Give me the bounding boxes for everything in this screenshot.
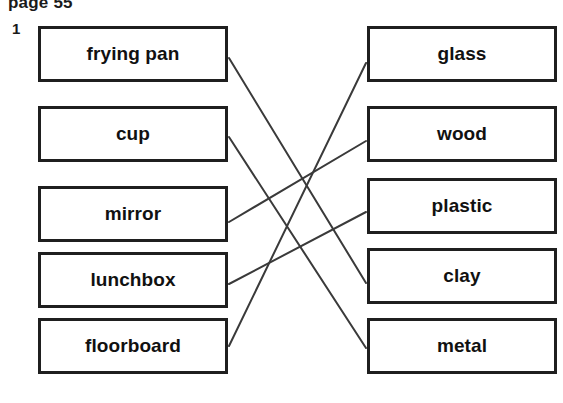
material-box-wood[interactable]: wood — [367, 106, 557, 162]
connector-line-frying-pan-to-clay[interactable] — [229, 58, 366, 283]
connector-line-mirror-to-wood[interactable] — [229, 141, 366, 222]
material-box-plastic[interactable]: plastic — [367, 178, 557, 234]
box-label: metal — [437, 335, 487, 357]
material-box-metal[interactable]: metal — [367, 318, 557, 374]
worksheet-page: page 55 1 frying pancupmirrorlunchboxflo… — [0, 0, 563, 403]
box-label: lunchbox — [90, 269, 175, 291]
box-label: plastic — [432, 195, 493, 217]
connector-line-floorboard-to-glass[interactable] — [229, 63, 366, 346]
box-label: mirror — [105, 203, 162, 225]
box-label: frying pan — [87, 43, 180, 65]
item-box-cup[interactable]: cup — [38, 106, 228, 162]
material-box-glass[interactable]: glass — [367, 26, 557, 82]
item-box-lunchbox[interactable]: lunchbox — [38, 252, 228, 308]
item-box-frying-pan[interactable]: frying pan — [38, 26, 228, 82]
box-label: floorboard — [85, 335, 181, 357]
item-box-floorboard[interactable]: floorboard — [38, 318, 228, 374]
box-label: glass — [437, 43, 486, 65]
material-box-clay[interactable]: clay — [367, 248, 557, 304]
box-label: cup — [116, 123, 150, 145]
box-label: wood — [437, 123, 487, 145]
item-box-mirror[interactable]: mirror — [38, 186, 228, 242]
box-label: clay — [443, 265, 480, 287]
